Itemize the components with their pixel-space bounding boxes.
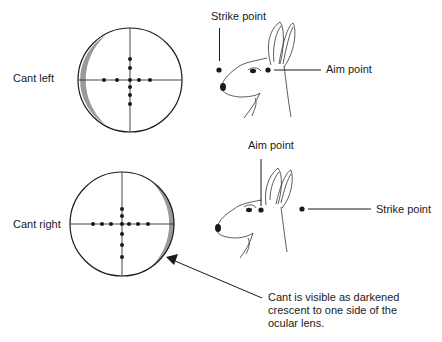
strike-point-label-bottom: Strike point (376, 203, 431, 216)
rabbit-nose-top (220, 83, 226, 91)
scope-cant-right (70, 172, 174, 276)
strike-point-label-top: Strike point (211, 10, 266, 23)
note-line: ocular lens. (268, 317, 418, 330)
crescent-note: Cant is visible as darkened crescent to … (268, 291, 418, 330)
mil-dots (102, 57, 152, 106)
crescent-callout-arrow (166, 254, 262, 298)
strike-point-dot-top (216, 67, 221, 72)
aim-point-label-bottom: Aim point (248, 139, 294, 152)
strike-point-dot-bottom (299, 206, 304, 211)
rabbit-eye-top (250, 69, 256, 73)
aim-point-label-top: Aim point (326, 63, 372, 76)
mil-dots (91, 207, 150, 259)
cant-left-label: Cant left (13, 72, 54, 85)
scope-cant-left (78, 28, 182, 132)
rabbit-eye-bottom (246, 208, 252, 212)
note-line: Cant is visible as darkened (268, 291, 418, 304)
rabbit-head-bottom (217, 168, 293, 258)
rabbit-nose-bottom (215, 224, 221, 232)
cant-right-label: Cant right (13, 218, 61, 231)
aim-point-dot-bottom (258, 207, 263, 212)
aim-point-dot-top (265, 67, 270, 72)
note-line: crescent to one side of the (268, 304, 418, 317)
